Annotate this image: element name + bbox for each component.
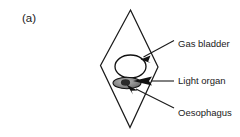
callout-label-light-organ: Light organ bbox=[178, 75, 226, 86]
gas-bladder-shape bbox=[115, 55, 146, 78]
figure-canvas: (a) Gas bladder Light organ Oesophagus bbox=[0, 0, 240, 137]
callout-label-oesophagus: Oesophagus bbox=[178, 107, 232, 118]
figure-panel-a: (a) Gas bladder Light organ Oesophagus bbox=[0, 0, 240, 137]
panel-label: (a) bbox=[22, 12, 36, 24]
callout-label-gas-bladder: Gas bladder bbox=[178, 38, 230, 49]
light-organ-core bbox=[121, 79, 130, 85]
